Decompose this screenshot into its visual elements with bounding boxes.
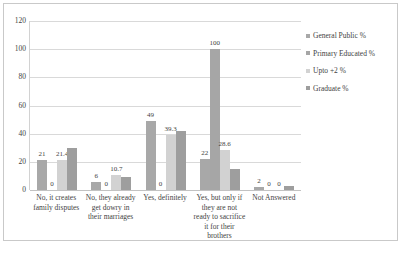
bar-value-label: 0 xyxy=(105,181,109,188)
bar-value-label: 49 xyxy=(147,112,154,119)
bar-group: 49039.3 xyxy=(138,21,192,190)
x-axis-category-label: No, they already get dowry in their marr… xyxy=(83,193,137,241)
bar-slot xyxy=(230,21,240,190)
bar-slot xyxy=(121,21,131,190)
chart-legend: General Public %Primary Educated %Upto +… xyxy=(306,32,398,102)
bar[interactable] xyxy=(210,49,220,190)
x-axis-category-label: Not Answered xyxy=(247,193,301,241)
x-axis-category-label: Yes, definitely xyxy=(138,193,192,241)
bar-slot: 21.4 xyxy=(57,21,67,190)
bar-value-label: 22 xyxy=(201,150,208,157)
bar[interactable] xyxy=(146,121,156,190)
bar-slot: 0 xyxy=(264,21,274,190)
bar-slot: 0 xyxy=(47,21,57,190)
gridline-0: 0 xyxy=(30,190,301,191)
bar-slot: 2 xyxy=(254,21,264,190)
bar[interactable] xyxy=(57,160,67,190)
bar-slot: 49 xyxy=(146,21,156,190)
y-axis-tick-80: 80 xyxy=(19,74,27,82)
bar-group: 200 xyxy=(247,21,301,190)
bar[interactable] xyxy=(284,186,294,190)
bar[interactable] xyxy=(37,160,47,190)
legend-swatch-icon xyxy=(306,34,310,38)
legend-item[interactable]: Upto +2 % xyxy=(306,67,398,75)
y-axis-tick-120: 120 xyxy=(15,17,26,25)
legend-label: Primary Educated % xyxy=(313,50,375,58)
y-axis-tick-40: 40 xyxy=(19,130,27,138)
legend-label: Upto +2 % xyxy=(313,67,346,75)
bar-group-bars: 49039.3 xyxy=(138,21,192,190)
bar-slot: 6 xyxy=(91,21,101,190)
bar-slot xyxy=(284,21,294,190)
bar[interactable] xyxy=(111,175,121,190)
bar-value-label: 0 xyxy=(159,181,163,188)
bar[interactable] xyxy=(220,150,230,190)
bar-slot: 0 xyxy=(274,21,284,190)
bar-value-label: 100 xyxy=(209,40,220,47)
bar-group: 21021.4 xyxy=(30,21,84,190)
bar[interactable] xyxy=(230,169,240,190)
bar-slot: 21 xyxy=(37,21,47,190)
bar-slot: 100 xyxy=(210,21,220,190)
bar-slot: 0 xyxy=(156,21,166,190)
bar[interactable] xyxy=(67,148,77,190)
legend-label: General Public % xyxy=(313,32,366,40)
bar-groups: 21021.46010.749039.32210028.6200 xyxy=(30,21,301,190)
x-axis-labels: No, it creates family disputesNo, they a… xyxy=(29,193,301,241)
legend-item[interactable]: General Public % xyxy=(306,32,398,40)
bar-slot xyxy=(67,21,77,190)
bar-value-label: 21 xyxy=(39,151,46,158)
bar-value-label: 0 xyxy=(267,181,271,188)
x-axis-category-label: Yes, but only if they are not ready to s… xyxy=(192,193,246,241)
bar-group-bars: 2210028.6 xyxy=(193,21,247,190)
bar-slot: 10.7 xyxy=(111,21,121,190)
bar-group-bars: 6010.7 xyxy=(84,21,138,190)
x-axis-category-label: No, it creates family disputes xyxy=(29,193,83,241)
bar[interactable] xyxy=(121,177,131,190)
bar-slot: 22 xyxy=(200,21,210,190)
bar-value-label: 0 xyxy=(277,181,281,188)
bar[interactable] xyxy=(254,187,264,190)
y-axis-tick-60: 60 xyxy=(19,102,27,110)
bar[interactable] xyxy=(176,131,186,190)
bar-value-label: 2 xyxy=(257,178,261,185)
bar-group-bars: 21021.4 xyxy=(30,21,84,190)
bar-slot: 28.6 xyxy=(220,21,230,190)
y-axis-tick-20: 20 xyxy=(19,158,27,166)
bar-value-label: 0 xyxy=(50,181,54,188)
legend-swatch-icon xyxy=(306,69,310,73)
legend-swatch-icon xyxy=(306,86,310,90)
bar[interactable] xyxy=(200,159,210,190)
plot-area: 020406080100120 21021.46010.749039.32210… xyxy=(29,21,301,190)
y-axis-tick-100: 100 xyxy=(15,45,26,53)
legend-swatch-icon xyxy=(306,51,310,55)
bar-group-bars: 200 xyxy=(247,21,301,190)
legend-label: Graduate % xyxy=(313,85,349,93)
bar[interactable] xyxy=(166,135,176,190)
bar-group: 2210028.6 xyxy=(193,21,247,190)
chart-figure: 020406080100120 21021.46010.749039.32210… xyxy=(3,3,398,241)
bar[interactable] xyxy=(91,182,101,190)
bar-slot: 39.3 xyxy=(166,21,176,190)
y-axis-tick-0: 0 xyxy=(22,186,26,194)
bar-group: 6010.7 xyxy=(84,21,138,190)
bar-value-label: 6 xyxy=(95,173,99,180)
legend-item[interactable]: Graduate % xyxy=(306,85,398,93)
bar-slot xyxy=(176,21,186,190)
legend-item[interactable]: Primary Educated % xyxy=(306,50,398,58)
